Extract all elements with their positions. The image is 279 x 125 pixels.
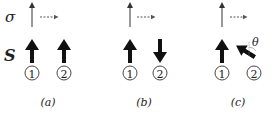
panel-caption-b: (b) xyxy=(136,96,152,109)
thick-up-arrow-icon xyxy=(25,39,39,63)
sigma-label: σ xyxy=(5,8,16,26)
panel-caption-a: (a) xyxy=(40,96,55,109)
panel-c: θ 1 2 (c) xyxy=(215,5,261,109)
particle-1-label: 1 xyxy=(219,68,226,81)
thick-up-arrow-icon xyxy=(215,39,229,63)
spin-label: S xyxy=(4,46,16,65)
panel-caption-c: (c) xyxy=(231,96,246,109)
theta-label: θ xyxy=(252,36,259,49)
thick-up-arrow-icon xyxy=(123,39,137,63)
particle-1-label: 1 xyxy=(29,68,36,81)
panel-a: 1 2 (a) xyxy=(25,5,71,109)
panel-b: 1 2 (b) xyxy=(123,5,167,109)
particle-1-label: 1 xyxy=(127,68,134,81)
spin-diagram: σ S 1 2 (a) 1 2 (b) xyxy=(0,0,279,125)
particle-2-label: 2 xyxy=(61,68,68,81)
thick-up-arrow-icon xyxy=(57,39,71,63)
particle-2-label: 2 xyxy=(251,68,258,81)
thick-down-arrow-icon xyxy=(153,39,167,63)
particle-2-label: 2 xyxy=(157,68,164,81)
